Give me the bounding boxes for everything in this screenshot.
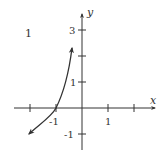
x-axis-label: x [150, 94, 157, 107]
y-tick-label-3: 3 [69, 25, 75, 36]
x-tick-label-neg1: -1 [49, 116, 59, 127]
x-tick-label-1: 1 [105, 116, 111, 127]
y-tick-label-1: 1 [70, 77, 76, 88]
coordinate-plane: 1 y x -1 1 3 1 -1 [0, 0, 165, 160]
y-axis-label: y [86, 6, 94, 19]
y-tick-label-neg1: -1 [64, 129, 74, 140]
panel-label: 1 [25, 27, 32, 40]
